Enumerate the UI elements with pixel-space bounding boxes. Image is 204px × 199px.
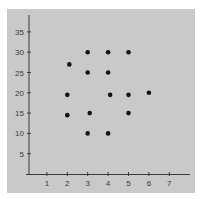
x-tick-label: 7 bbox=[167, 179, 172, 188]
axes: 5101520253035 1234567 bbox=[15, 15, 190, 188]
y-tick-label: 15 bbox=[15, 109, 24, 118]
scatter-plot: 5101520253035 1234567 bbox=[0, 0, 204, 199]
x-tick-label: 1 bbox=[45, 179, 50, 188]
x-tick-label: 3 bbox=[85, 179, 90, 188]
data-point bbox=[65, 93, 70, 98]
y-tick-label: 35 bbox=[15, 28, 24, 37]
data-point bbox=[85, 131, 90, 136]
y-tick-label: 25 bbox=[15, 69, 24, 78]
x-tick-label: 4 bbox=[106, 179, 111, 188]
y-tick-label: 10 bbox=[15, 129, 24, 138]
data-point bbox=[126, 50, 131, 55]
data-point bbox=[108, 93, 113, 98]
data-point bbox=[126, 111, 131, 116]
data-point bbox=[126, 93, 131, 98]
x-tick-label: 5 bbox=[126, 179, 131, 188]
y-tick-label: 30 bbox=[15, 48, 24, 57]
data-point bbox=[106, 50, 111, 55]
x-tick-label: 6 bbox=[147, 179, 152, 188]
y-tick-label: 20 bbox=[15, 89, 24, 98]
data-points bbox=[65, 50, 151, 136]
data-point bbox=[67, 62, 72, 67]
data-point bbox=[106, 70, 111, 75]
data-point bbox=[65, 113, 70, 118]
data-point bbox=[85, 50, 90, 55]
x-tick-label: 2 bbox=[65, 179, 70, 188]
data-point bbox=[106, 131, 111, 136]
y-tick-label: 5 bbox=[20, 150, 25, 159]
data-point bbox=[147, 91, 152, 96]
data-point bbox=[85, 70, 90, 75]
data-point bbox=[87, 111, 92, 116]
